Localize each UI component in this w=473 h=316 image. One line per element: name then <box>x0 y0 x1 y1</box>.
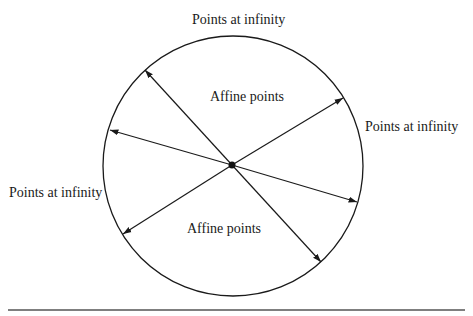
label-top-points-at-infinity: Points at infinity <box>192 13 285 27</box>
label-affine-lower: Affine points <box>187 222 261 236</box>
arrow-left <box>110 130 232 165</box>
projective-plane-diagram <box>0 0 473 316</box>
label-right-points-at-infinity: Points at infinity <box>365 120 458 134</box>
center-point <box>229 162 236 169</box>
arrow-upper-left <box>145 70 232 165</box>
label-left-points-at-infinity: Points at infinity <box>9 186 102 200</box>
arrow-right <box>232 165 357 202</box>
arrow-lower-right <box>232 165 321 262</box>
arrow-upper-right <box>232 98 343 165</box>
label-affine-upper: Affine points <box>210 90 284 104</box>
